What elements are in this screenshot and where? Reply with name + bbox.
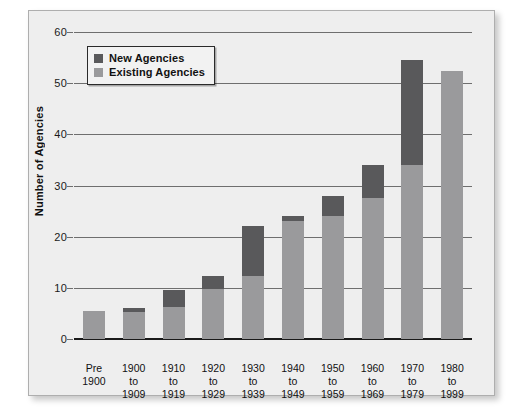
x-tick-label-line: to <box>392 375 432 388</box>
x-tick-label-line: 1940 <box>273 362 313 375</box>
bar-segment-new-agencies <box>362 165 384 198</box>
legend-label: New Agencies <box>109 52 184 64</box>
x-tick-label-line: 1939 <box>233 388 273 401</box>
x-tick-label-line: 1900 <box>114 362 154 375</box>
bar-segment-new-agencies <box>322 196 344 216</box>
y-tick-mark <box>67 134 73 135</box>
x-tick-label-line: 1979 <box>392 388 432 401</box>
x-tick-label-line: 1909 <box>114 388 154 401</box>
bar-column <box>123 308 145 339</box>
x-tick-label-line: to <box>193 375 233 388</box>
bar-segment-existing-agencies <box>441 71 463 339</box>
bar-segment-new-agencies <box>202 276 224 289</box>
y-tick-mark <box>67 237 73 238</box>
bar-column <box>441 71 463 339</box>
y-tick-mark <box>67 339 73 340</box>
bar-column <box>322 196 344 339</box>
legend-label: Existing Agencies <box>109 66 205 78</box>
y-tick-mark <box>67 288 73 289</box>
y-tick-mark <box>67 32 73 33</box>
bar-column <box>242 226 264 339</box>
legend-swatch-icon <box>94 68 103 77</box>
x-tick-label: 1950to1959 <box>313 362 353 401</box>
bar-segment-existing-agencies <box>123 312 145 339</box>
y-tick-label: 60 <box>54 26 67 38</box>
x-tick-label-line: 1959 <box>313 388 353 401</box>
x-tick-label-line: 1920 <box>193 362 233 375</box>
x-tick-label-line: 1960 <box>353 362 393 375</box>
bar-segment-existing-agencies <box>83 311 105 339</box>
x-axis-labels: Pre19001900to19091910to19191920to1929193… <box>74 362 472 410</box>
x-tick-label: 1900to1909 <box>114 362 154 401</box>
x-tick-label-line: to <box>313 375 353 388</box>
x-tick-label-line: 1919 <box>154 388 194 401</box>
bar-segment-new-agencies <box>163 290 185 307</box>
x-tick-label-line: to <box>432 375 472 388</box>
y-tick-mark <box>67 83 73 84</box>
bar-segment-existing-agencies <box>401 165 423 339</box>
legend-item: New Agencies <box>94 51 205 65</box>
y-tick-label: 40 <box>54 128 67 140</box>
x-tick-label-line: Pre <box>74 362 114 375</box>
bar-column <box>282 216 304 339</box>
bar-segment-existing-agencies <box>242 276 264 339</box>
bar-column <box>83 311 105 339</box>
bar-segment-existing-agencies <box>202 289 224 339</box>
y-axis-title: Number of Agencies <box>33 106 49 216</box>
x-tick-label-line: 1999 <box>432 388 472 401</box>
bar-column <box>362 165 384 339</box>
legend-item: Existing Agencies <box>94 65 205 79</box>
bar-segment-existing-agencies <box>362 198 384 339</box>
chart-legend: New AgenciesExisting Agencies <box>87 46 215 85</box>
bar-segment-new-agencies <box>242 226 264 276</box>
y-tick-label: 20 <box>54 231 67 243</box>
x-tick-label: 1930to1939 <box>233 362 273 401</box>
x-tick-label-line: 1910 <box>154 362 194 375</box>
x-tick-label-line: 1980 <box>432 362 472 375</box>
chart-panel: Number of Agencies 0102030405060 Pre1900… <box>28 10 495 396</box>
y-tick-label: 10 <box>54 282 67 294</box>
y-tick-label: 50 <box>54 77 67 89</box>
x-tick-label-line: 1930 <box>233 362 273 375</box>
x-tick-label-line: 1929 <box>193 388 233 401</box>
x-tick-label: 1940to1949 <box>273 362 313 401</box>
bar-segment-existing-agencies <box>163 307 185 339</box>
x-tick-label: 1920to1929 <box>193 362 233 401</box>
x-tick-label-line: to <box>353 375 393 388</box>
bar-segment-existing-agencies <box>282 221 304 339</box>
y-tick-mark <box>67 186 73 187</box>
x-tick-label-line: to <box>273 375 313 388</box>
x-tick-label-line: 1950 <box>313 362 353 375</box>
x-tick-label-line: 1949 <box>273 388 313 401</box>
x-tick-label-line: 1970 <box>392 362 432 375</box>
x-tick-label-line: 1900 <box>74 375 114 388</box>
legend-swatch-icon <box>94 54 103 63</box>
bar-segment-existing-agencies <box>322 216 344 339</box>
x-tick-label-line: to <box>154 375 194 388</box>
bar-column <box>202 276 224 339</box>
x-tick-label: 1970to1979 <box>392 362 432 401</box>
x-tick-label-line: 1969 <box>353 388 393 401</box>
x-tick-label: 1960to1969 <box>353 362 393 401</box>
gridline <box>74 32 472 33</box>
x-tick-label: Pre1900 <box>74 362 114 388</box>
y-tick-label: 0 <box>61 333 67 345</box>
bar-segment-new-agencies <box>401 60 423 165</box>
x-tick-label-line: to <box>233 375 273 388</box>
x-tick-label: 1910to1919 <box>154 362 194 401</box>
x-tick-label: 1980to1999 <box>432 362 472 401</box>
y-tick-label: 30 <box>54 180 67 192</box>
bar-column <box>401 60 423 339</box>
bar-column <box>163 290 185 339</box>
x-tick-label-line: to <box>114 375 154 388</box>
